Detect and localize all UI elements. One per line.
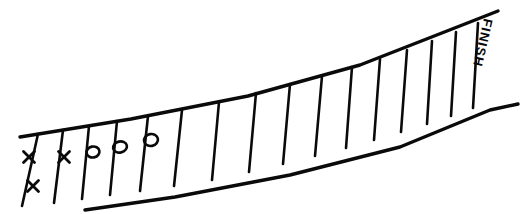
track-edges (20, 11, 518, 210)
divider-8 (249, 93, 256, 172)
divider-11 (346, 67, 352, 148)
divider-14 (427, 41, 432, 124)
mark-o-1[interactable] (85, 145, 100, 158)
finish-label-group: FINISH (470, 17, 496, 68)
divider-9 (283, 84, 290, 164)
track-bottom-edge (85, 104, 518, 210)
track-dividers (22, 23, 478, 206)
divider-6 (174, 110, 182, 186)
divider-3 (82, 126, 89, 199)
divider-12 (374, 59, 380, 140)
finish-label: FINISH (470, 17, 496, 68)
divider-15 (451, 32, 456, 116)
divider-10 (315, 76, 322, 156)
player-marks (24, 133, 160, 192)
divider-4 (110, 121, 117, 195)
divider-13 (401, 50, 407, 132)
race-track-board: FINISH (0, 0, 523, 214)
track-drawing: FINISH (0, 0, 523, 214)
divider-7 (212, 102, 219, 180)
divider-2 (54, 130, 63, 203)
divider-1 (22, 134, 38, 206)
mark-x-2[interactable] (28, 181, 39, 192)
divider-5 (140, 116, 148, 191)
